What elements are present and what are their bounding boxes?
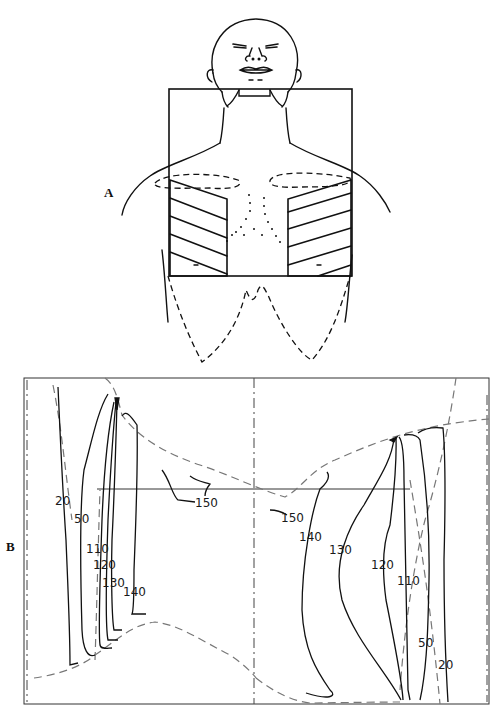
isodose-140-right (302, 472, 333, 697)
isodose-label-110-left: 110 (86, 542, 109, 556)
panel-b-isodose-plot: 20 50 110 120 130 140 150 150 140 130 12… (0, 0, 502, 719)
isodose-label-130-left: 130 (102, 576, 125, 590)
lower-body-contour (34, 622, 256, 678)
isodose-label-110-right: 110 (397, 574, 420, 588)
isodose-110-right (399, 437, 410, 700)
isodose-140-left (122, 413, 146, 614)
isodose-label-150-right: 150 (281, 511, 304, 525)
isodose-label-50-left: 50 (74, 512, 89, 526)
isodose-label-120-right: 120 (371, 558, 394, 572)
isodose-label-20-right: 20 (438, 658, 453, 672)
isodose-label-140-left: 140 (123, 585, 146, 599)
isodose-label-150-left: 150 (195, 496, 218, 510)
isodose-label-50-right: 50 (418, 636, 433, 650)
isodose-label-120-left: 120 (93, 558, 116, 572)
isodose-20-left (58, 387, 78, 665)
isodose-label-20-left: 20 (55, 494, 70, 508)
isodose-150-left (162, 470, 195, 502)
isodose-label-140-right: 140 (299, 530, 322, 544)
upper-body-contour (105, 378, 489, 497)
isodose-label-130-right: 130 (329, 543, 352, 557)
